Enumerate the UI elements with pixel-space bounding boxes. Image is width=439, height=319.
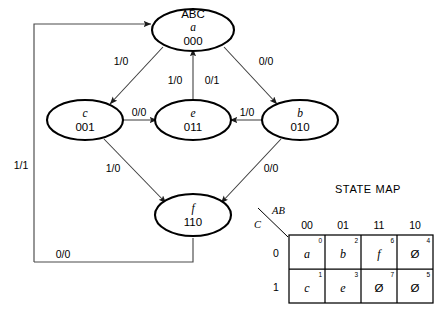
kmap-cell-value: c	[304, 281, 310, 295]
kmap-cell[interactable]: 1 c	[304, 271, 322, 295]
kmap-cell-value: Ø	[411, 282, 420, 294]
state-b-code: 010	[290, 121, 309, 133]
kmap-col-header-01: 01	[337, 219, 349, 231]
state-diagram-figure: ABC a 000 c 001 e 011 b 010 f 110 1/0	[0, 0, 439, 319]
kmap-row-header-1: 1	[273, 281, 279, 293]
edge-label-e-to-a-left: 1/0	[168, 74, 183, 86]
kmap-cell[interactable]: 3 e	[340, 271, 358, 295]
state-map-title: STATE MAP	[335, 183, 401, 195]
edge-label-b-to-f: 0/0	[264, 162, 279, 174]
kmap-cell-value: f	[377, 247, 382, 261]
state-node-a[interactable]: ABC a 000	[152, 8, 234, 51]
kmap-row-axis-label: C	[254, 219, 262, 230]
state-a-code: 000	[183, 35, 202, 47]
edge-label-feedback-bottom: 0/0	[56, 248, 71, 260]
state-node-c[interactable]: c 001	[47, 100, 123, 140]
kmap-cell-value: e	[340, 281, 346, 295]
kmap-cell-index: 3	[354, 271, 358, 278]
kmap-cell-index: 4	[426, 237, 430, 244]
kmap-cell-index: 2	[354, 237, 358, 244]
state-map: STATE MAP AB C 00 01 11 10 0 1 0	[254, 183, 433, 303]
state-node-b[interactable]: b 010	[262, 100, 338, 140]
state-b-name: b	[297, 107, 303, 119]
kmap-cell-index: 7	[390, 271, 394, 278]
state-f-code: 110	[184, 216, 202, 228]
edge-label-feedback-left: 1/1	[14, 159, 29, 171]
state-e-name: e	[190, 107, 195, 119]
state-e-code: 011	[184, 121, 202, 133]
edge-label-e-to-a-right: 0/1	[205, 74, 220, 86]
edge-label-a-to-c: 1/0	[114, 55, 129, 67]
edge-label-a-to-b: 0/0	[259, 55, 274, 67]
kmap-cell[interactable]: 7 Ø	[375, 271, 395, 294]
state-a-name: a	[190, 21, 196, 33]
state-node-e[interactable]: e 011	[155, 100, 231, 140]
kmap-cell[interactable]: 0 a	[304, 237, 322, 261]
kmap-col-header-11: 11	[374, 219, 385, 231]
kmap-cell[interactable]: 2 b	[340, 237, 358, 261]
feedback-path-left	[34, 24, 151, 262]
state-c-name: c	[82, 107, 87, 119]
kmap-cell[interactable]: 5 Ø	[411, 271, 431, 294]
kmap-col-header-10: 10	[409, 219, 421, 231]
kmap-cell[interactable]: 4 Ø	[411, 237, 431, 260]
kmap-row-header-0: 0	[273, 247, 279, 259]
state-node-f[interactable]: f 110	[155, 194, 231, 236]
state-a-header: ABC	[181, 8, 205, 20]
kmap-cell-index: 5	[426, 271, 430, 278]
kmap-cell-value: a	[304, 247, 310, 261]
kmap-cell-index: 1	[318, 271, 322, 278]
state-c-code: 001	[75, 121, 94, 133]
edge-label-c-to-f: 1/0	[106, 162, 121, 174]
edge-label-b-to-e: 1/0	[240, 106, 255, 118]
kmap-cell-value: Ø	[411, 248, 420, 260]
kmap-col-axis-label: AB	[271, 205, 285, 216]
kmap-cell-value: b	[340, 247, 346, 261]
kmap-cell[interactable]: 6 f	[377, 237, 394, 261]
edge-label-c-to-e: 0/0	[132, 106, 147, 118]
kmap-axis-corner: AB C	[254, 205, 288, 237]
kmap-cell-index: 0	[318, 237, 322, 244]
diagram-canvas: ABC a 000 c 001 e 011 b 010 f 110 1/0	[0, 0, 439, 319]
kmap-col-header-00: 00	[301, 219, 313, 231]
kmap-cell-value: Ø	[375, 282, 384, 294]
kmap-cell-index: 6	[390, 237, 394, 244]
